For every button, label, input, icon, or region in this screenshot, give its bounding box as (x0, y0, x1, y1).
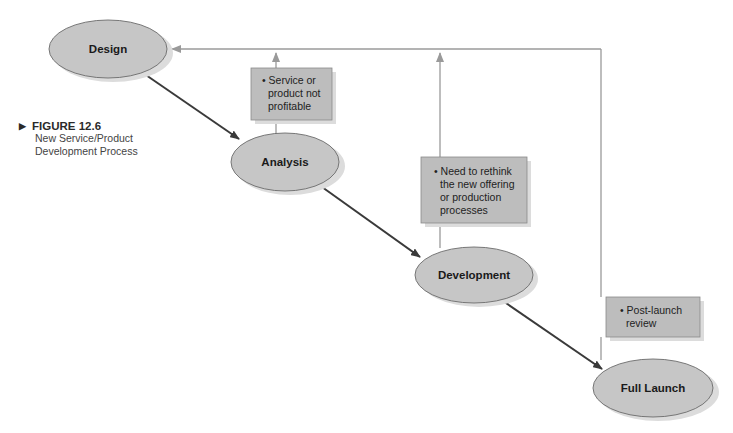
arrow-design-to-analysis (143, 73, 239, 139)
arrow-development-to-launch (503, 301, 602, 369)
triangle-right-icon: ▶ (19, 121, 26, 131)
node-label-development: Development (438, 269, 510, 281)
caption-line-1: New Service/Product (35, 132, 138, 145)
box2-line1: • Need to rethink (434, 165, 513, 177)
node-label-full-launch: Full Launch (621, 382, 686, 394)
box1-line2: product not (268, 87, 321, 99)
forward-arrows (143, 73, 602, 369)
box2-line4: processes (440, 204, 488, 216)
node-full-launch: Full Launch (593, 359, 719, 421)
figure-number: ▶ FIGURE 12.6 (19, 120, 138, 132)
feedback-box-3: • Post-launch review (606, 297, 704, 341)
box3-line1: • Post-launch (620, 304, 682, 316)
node-analysis: Analysis (231, 133, 345, 195)
feedback-box-1: • Service or product not profitable (251, 68, 336, 124)
feedback-box-2: • Need to rethink the new offering or pr… (421, 157, 531, 227)
box2-line2: the new offering (440, 178, 515, 190)
node-design: Design (49, 20, 173, 82)
box2-line3: or production (440, 191, 501, 203)
node-label-design: Design (89, 43, 127, 55)
node-development: Development (415, 247, 538, 307)
figure-caption: ▶ FIGURE 12.6 New Service/Product Develo… (19, 120, 138, 158)
process-diagram: • Service or product not profitable • Ne… (0, 0, 733, 433)
caption-line-2: Development Process (35, 145, 138, 158)
figure-number-text: FIGURE 12.6 (32, 120, 101, 132)
feedback-lines (172, 49, 601, 360)
box1-line1: • Service or (262, 74, 316, 86)
arrow-analysis-to-development (322, 187, 420, 257)
box1-line3: profitable (268, 100, 311, 112)
box3-line2: review (626, 317, 657, 329)
node-label-analysis: Analysis (261, 156, 308, 168)
